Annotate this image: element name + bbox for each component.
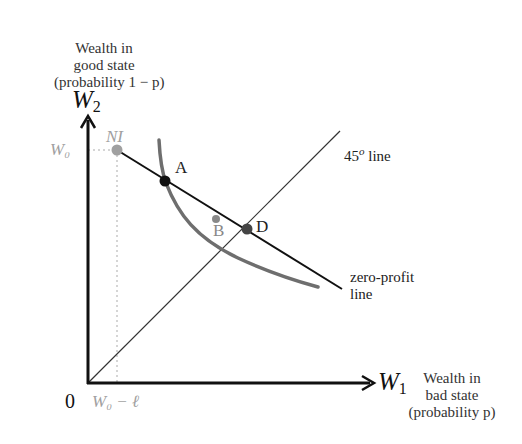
x-axis-symbol-letter: W xyxy=(378,368,399,395)
origin-label: 0 xyxy=(65,390,75,413)
point-d-label: D xyxy=(256,217,268,237)
forty-five-line-label: 45o line xyxy=(344,145,391,165)
zero-profit-line-label: zero-profit line xyxy=(350,269,414,303)
y-axis-symbol-letter: W xyxy=(72,86,93,113)
zero-profit-line xyxy=(117,150,342,289)
insurance-diagram: Wealth in good state (probability 1 − p)… xyxy=(0,0,522,444)
y-tick-w0: W₀ xyxy=(50,140,70,160)
zero-profit-label-line-2: line xyxy=(350,286,414,303)
x-axis-description: Wealth in bad state (probability p) xyxy=(402,370,502,421)
point-d xyxy=(242,224,253,235)
forty-five-label-number: 45 xyxy=(344,148,359,164)
y-axis-symbol: W2 xyxy=(72,86,101,116)
point-a-label: A xyxy=(175,158,187,178)
point-ni-label: NI xyxy=(106,127,123,147)
point-a xyxy=(160,176,171,187)
x-tick-w0-minus-l: W₀ − ℓ xyxy=(92,392,139,412)
x-axis-desc-line-3: (probability p) xyxy=(402,404,502,421)
y-axis-desc-line-3: (probability 1 − p) xyxy=(54,74,154,91)
zero-profit-label-line-1: zero-profit xyxy=(350,269,414,286)
y-axis-description: Wealth in good state (probability 1 − p) xyxy=(54,40,154,91)
point-b-label: B xyxy=(213,221,224,241)
x-axis-desc-line-1: Wealth in xyxy=(402,370,502,387)
x-axis-desc-line-2: bad state xyxy=(402,387,502,404)
y-axis-desc-line-1: Wealth in xyxy=(54,40,154,57)
forty-five-degree-line xyxy=(88,131,340,383)
forty-five-label-text: line xyxy=(365,148,391,164)
y-axis-desc-line-2: good state xyxy=(54,57,154,74)
y-axis-symbol-subscript: 2 xyxy=(93,98,101,115)
